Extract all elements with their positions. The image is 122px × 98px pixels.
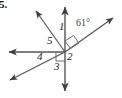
geometry-figure: 5. 1 61° 5 4 2 3	[0, 0, 122, 98]
angle-diagram-canvas	[0, 0, 122, 98]
angle-label-3: 3	[54, 61, 60, 72]
angle-label-2: 2	[67, 51, 73, 62]
angle-label-1: 1	[59, 21, 65, 32]
angle-label-4: 4	[37, 51, 43, 62]
figure-number: 5.	[0, 0, 7, 10]
angle-measure-label: 61°	[76, 18, 90, 28]
angle-label-5: 5	[47, 35, 53, 46]
